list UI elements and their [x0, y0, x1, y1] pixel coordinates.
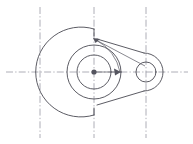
engineering-drawing-canvas — [0, 0, 193, 144]
radius-leader-line — [96, 40, 145, 66]
lower-tangent-edge — [97, 91, 144, 105]
dimension-group — [91, 38, 145, 76]
arrowhead-right — [114, 69, 121, 76]
part-drawing-svg — [0, 0, 193, 144]
center-mark-dot — [91, 69, 96, 74]
upper-tangent-edge — [97, 39, 144, 53]
centerline-group — [6, 7, 188, 138]
